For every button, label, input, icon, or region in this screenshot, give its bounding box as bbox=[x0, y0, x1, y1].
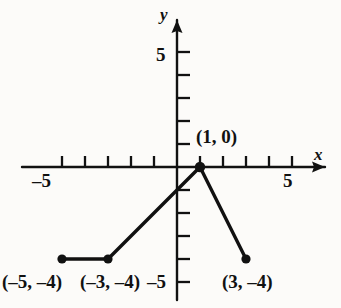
point-label-vertex: (1, 0) bbox=[196, 127, 237, 146]
graph-figure: y x 5 –5 –5 5 (1, 0) (–5, –4) (–3, –4) (… bbox=[0, 0, 341, 308]
point-label-left-knee: (–3, –4) bbox=[80, 272, 140, 291]
x-axis-group bbox=[22, 156, 325, 173]
x-tick-label-neg5: –5 bbox=[32, 171, 51, 190]
data-point-neg3-neg4 bbox=[103, 254, 112, 263]
y-tick-label-neg5: –5 bbox=[147, 272, 166, 291]
point-label-left-end: (–5, –4) bbox=[2, 272, 62, 291]
y-axis-label: y bbox=[160, 6, 168, 23]
data-point-1-0 bbox=[195, 162, 205, 172]
x-tick-label-5: 5 bbox=[283, 171, 293, 190]
y-axis-group bbox=[172, 20, 191, 300]
data-point-neg5-neg4 bbox=[57, 254, 66, 263]
coordinate-plane-svg bbox=[0, 0, 341, 308]
data-polyline bbox=[62, 167, 246, 259]
point-label-right-end: (3, –4) bbox=[222, 272, 273, 291]
y-tick-label-5: 5 bbox=[156, 45, 166, 64]
data-point-3-neg4 bbox=[241, 254, 250, 263]
x-axis-label: x bbox=[314, 146, 323, 163]
